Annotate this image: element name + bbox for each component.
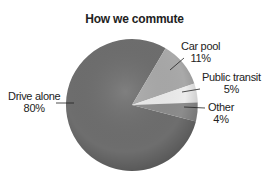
label-other: Other4% [208, 101, 234, 125]
pie-slices [66, 39, 198, 171]
label-drive-alone: Drive alone80% [8, 90, 60, 114]
label-public-transit: Public transit5% [202, 71, 261, 95]
label-car-pool: Car pool11% [181, 40, 220, 64]
